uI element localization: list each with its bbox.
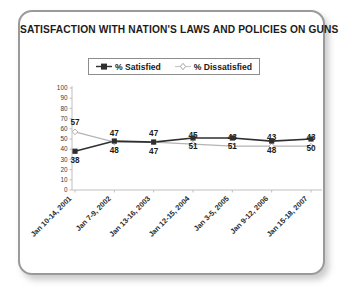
open-diamond-marker-icon <box>175 62 191 71</box>
page-title: SATISFACTION WITH NATION'S LAWS AND POLI… <box>20 24 323 35</box>
legend-item-satisfied: % Satisfied <box>96 62 161 72</box>
filled-square-line-marker-icon <box>96 62 112 71</box>
legend-item-dissatisfied: % Dissatisfied <box>175 62 252 72</box>
legend-label-satisfied: % Satisfied <box>115 62 161 72</box>
legend-label-dissatisfied: % Dissatisfied <box>194 62 252 72</box>
chart-legend: % Satisfied % Dissatisfied <box>88 58 260 75</box>
chart-card: SATISFACTION WITH NATION'S LAWS AND POLI… <box>18 10 325 275</box>
